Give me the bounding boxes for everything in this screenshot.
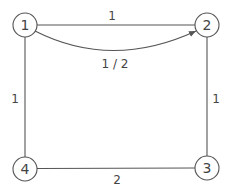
node-label-4: 4 xyxy=(21,161,30,177)
edge-label-1-4: 1 xyxy=(11,92,19,106)
edge-1-2-curved xyxy=(35,31,196,51)
node-label-2: 2 xyxy=(203,17,212,33)
node-2: 2 xyxy=(195,13,219,37)
graph-diagram: 1 1 / 2 1 1 2 1 2 3 4 xyxy=(0,0,231,189)
node-label-3: 3 xyxy=(203,160,212,176)
edge-label-4-3: 2 xyxy=(113,173,121,187)
node-4: 4 xyxy=(13,157,37,181)
edge-4-3 xyxy=(37,168,195,169)
edge-label-2-3: 1 xyxy=(212,92,220,106)
edge-label-1-2: 1 xyxy=(108,9,116,23)
node-3: 3 xyxy=(195,156,219,180)
edge-label-1-2-curved: 1 / 2 xyxy=(102,57,129,71)
node-1: 1 xyxy=(13,13,37,37)
node-label-1: 1 xyxy=(21,17,30,33)
